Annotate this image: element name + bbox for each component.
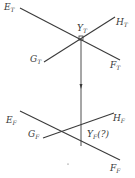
label-e-front: EF bbox=[6, 116, 17, 126]
label-h-front: HF bbox=[113, 114, 125, 124]
label-y-top: YT bbox=[77, 24, 87, 34]
label-g-top: GT bbox=[30, 55, 41, 65]
label-y-front: YF(?) bbox=[87, 130, 109, 140]
line-ef-top-view bbox=[20, 8, 120, 60]
label-h-top: HT bbox=[116, 18, 128, 28]
label-f-front: FF bbox=[110, 164, 120, 174]
arrow-down-icon bbox=[80, 84, 83, 89]
label-f-top: FT bbox=[110, 61, 120, 71]
projection-diagram bbox=[0, 0, 135, 178]
dot-mark bbox=[67, 163, 68, 164]
label-g-front: GF bbox=[28, 130, 39, 140]
label-e-top: ET bbox=[4, 3, 15, 13]
